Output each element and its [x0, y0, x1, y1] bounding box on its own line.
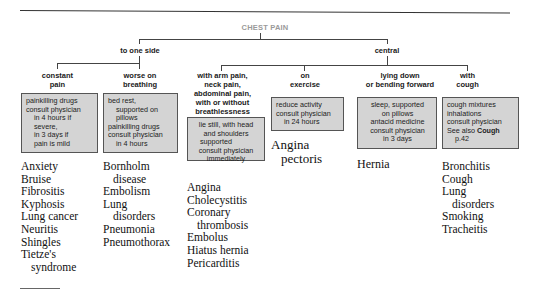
connector — [57, 63, 58, 69]
advice-box-lying-down: sleep, supported on pillows antacid medi… — [357, 97, 437, 149]
branch-to-one-side: to one side — [110, 46, 170, 55]
conditions-arm-neck-abdominal-pain: Angina Cholecystitis Coronary thrombosis… — [187, 181, 249, 269]
connector — [57, 63, 140, 64]
conditions-with-cough: Bronchitis Cough Lung disorders Smoking … — [442, 160, 494, 236]
conditions-constant-pain: Anxiety Bruise Fibrositis Kyphosis Lung … — [21, 160, 78, 273]
connector — [221, 65, 468, 66]
conditions-lying-down: Hernia — [357, 158, 390, 171]
category-label-arm-neck-abdominal-pain: with arm pain, neck pain, abdominal pain… — [180, 71, 265, 116]
category-label-lying-down: lying down or bending forward — [355, 71, 445, 89]
conditions-worse-on-breathing: Bornholm disease Embolism Lung disorders… — [103, 160, 170, 248]
category-label-on-exercise: on exercise — [280, 71, 330, 89]
branch-central: central — [362, 46, 412, 55]
advice-box-arm-neck-abdominal-pain: lie still, with head and shoulders suppo… — [187, 117, 265, 161]
top-rule — [20, 10, 510, 14]
advice-box-with-cough: cough mixtures inhalations consult physi… — [442, 97, 519, 149]
advice-box-constant-pain: painkilling drugs consult physician in 4… — [21, 93, 98, 153]
connector — [139, 63, 140, 69]
advice-box-worse-on-breathing: bed rest, supported on pillows painkilli… — [103, 93, 178, 153]
bottom-rule — [20, 288, 60, 289]
connector — [139, 56, 140, 63]
conditions-on-exercise: Angina pectoris — [271, 138, 322, 166]
advice-box-on-exercise: reduce activity consult physician in 24 … — [271, 97, 344, 131]
connector — [139, 39, 388, 40]
category-label-worse-on-breathing: worse on breathing — [105, 71, 175, 89]
cross-reference-cough: Cough — [477, 126, 500, 135]
category-label-constant-pain: constant pain — [25, 71, 90, 89]
connector — [139, 39, 140, 44]
connector — [387, 39, 388, 44]
diagram-title: CHEST PAIN — [230, 23, 300, 32]
category-label-with-cough: with cough — [440, 71, 495, 89]
connector — [387, 56, 388, 65]
